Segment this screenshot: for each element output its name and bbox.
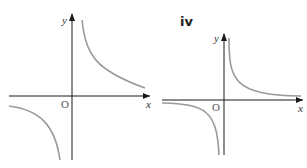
origin-label: O xyxy=(212,101,220,113)
origin-label: O xyxy=(61,98,69,110)
hyperbola-graph: y x O xyxy=(155,0,307,168)
curve-branch-lower xyxy=(9,106,60,160)
y-axis-label: y xyxy=(213,32,219,44)
graph-panel-iv: iv y x O xyxy=(155,0,307,168)
y-axis-arrow-icon xyxy=(69,13,75,21)
y-axis-arrow-icon xyxy=(221,33,227,41)
curve-branch-upper xyxy=(82,20,145,88)
x-axis-label: x xyxy=(297,102,303,114)
hyperbola-graph: y x O xyxy=(0,0,155,168)
graph-panel-left: i y x O xyxy=(0,0,155,168)
curve-branch-lower xyxy=(162,103,219,155)
curve-branch-upper xyxy=(229,38,301,96)
y-axis-label: y xyxy=(61,14,67,26)
x-axis-label: x xyxy=(145,98,151,110)
